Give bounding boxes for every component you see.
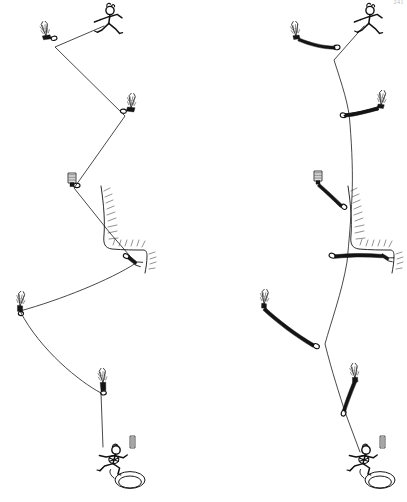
- rock-feature-roof-left: [101, 186, 156, 273]
- protection-piton-2: [120, 92, 137, 114]
- runner-sling-4: [334, 238, 384, 275]
- lead-climber-left: [94, 3, 122, 33]
- protection-piton-6: [337, 363, 362, 417]
- rope-coil-right: [360, 469, 395, 488]
- protection-nut-3: [314, 171, 348, 210]
- protection-piton-1: [290, 17, 340, 55]
- belay-device-left: [130, 436, 135, 448]
- runner-sling-3: [317, 183, 342, 207]
- belayer-right: [347, 436, 395, 488]
- belay-device-right: [380, 436, 385, 448]
- panel-straight: [255, 3, 403, 488]
- rock-feature-roof-right: [348, 186, 403, 273]
- protection-piton-6: [98, 368, 108, 395]
- rope-drag-diagram: 241 Rope drag: zigzag rope path versus e…: [0, 0, 407, 502]
- lead-climber-right: [354, 3, 382, 33]
- runner-sling-5: [260, 307, 318, 347]
- protection-piton-1: [39, 20, 57, 42]
- runner-sling-1: [298, 34, 336, 53]
- rope-coil-left: [110, 469, 145, 488]
- page-number: 241: [394, 0, 405, 5]
- protection-nut-3: [68, 173, 80, 188]
- protection-piton-5: [255, 289, 325, 350]
- diagram-canvas: [0, 0, 407, 502]
- belayer-left: [97, 436, 145, 488]
- panel-zigzag: [14, 3, 156, 488]
- rope-path-zigzag: [20, 26, 136, 447]
